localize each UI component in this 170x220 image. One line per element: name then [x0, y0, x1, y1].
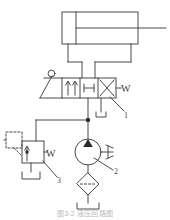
valve-position-left	[66, 81, 78, 95]
filter-symbol	[77, 173, 99, 209]
hydraulic-circuit-diagram: W W 1 2 3 图3-2 液压回路图	[0, 0, 170, 220]
valve-position-center	[84, 84, 94, 92]
leader-line-3	[43, 161, 57, 177]
valve-supply-lines	[88, 98, 106, 120]
relief-tank-symbol	[22, 172, 40, 179]
pump-drive-mark-1	[106, 145, 113, 148]
valve-drain-tank	[96, 112, 106, 117]
schematic-svg: W W 1 2 3	[0, 0, 170, 220]
figure-caption: 图3-2 液压回路图	[0, 208, 170, 218]
label-3: 3	[57, 176, 61, 185]
relief-pilot-box	[6, 132, 22, 148]
relief-valve-symbol	[2, 132, 47, 179]
relief-pilot-connector	[14, 148, 22, 156]
valve-spring-w-label: W	[121, 83, 131, 94]
relief-valve-seat	[26, 151, 29, 154]
valve-position-right	[100, 80, 114, 96]
leader-line-2	[94, 158, 113, 170]
relief-valve-body	[22, 141, 44, 163]
pump-drive-mark-2	[106, 156, 113, 159]
leader-line-1	[110, 97, 124, 111]
pump-flow-arrow	[83, 139, 93, 147]
cylinder-symbol	[62, 12, 166, 44]
lever-stem	[40, 76, 52, 98]
label-leader-lines	[43, 97, 124, 177]
label-1: 1	[124, 111, 128, 120]
cylinder-port-lines	[68, 44, 131, 78]
valve-manual-lever-actuator	[40, 70, 62, 98]
junction-dot-pressure	[86, 118, 90, 122]
pressure-branch-lines	[36, 120, 88, 141]
relief-spring-w-label: W	[46, 148, 56, 159]
pump-symbol	[75, 139, 113, 173]
label-2: 2	[114, 167, 118, 176]
directional-valve-symbol	[62, 78, 116, 98]
